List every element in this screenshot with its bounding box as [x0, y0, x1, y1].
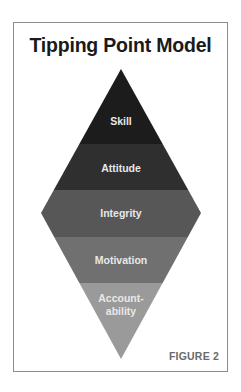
band-skill	[0, 60, 241, 144]
label-accountability-line1: Account-	[98, 292, 144, 304]
label-accountability-line2: ability	[106, 305, 137, 317]
tipping-point-diamond: Skill Attitude Integrity Motivation Acco…	[0, 0, 241, 392]
label-integrity: Integrity	[100, 207, 142, 219]
label-motivation: Motivation	[95, 254, 148, 266]
label-attitude: Attitude	[101, 162, 141, 174]
label-skill: Skill	[110, 115, 132, 127]
figure-caption: FIGURE 2	[169, 350, 219, 362]
